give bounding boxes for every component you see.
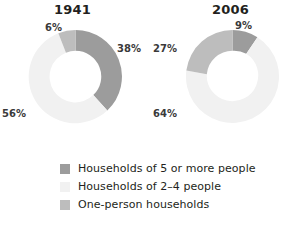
legend-label-one-person: One-person households: [78, 199, 209, 210]
donut-wrap-2006: 9% 27% 64%: [151, 27, 302, 150]
slice-label-2006-large: 9%: [235, 20, 252, 31]
legend-label-medium: Households of 2–4 people: [78, 181, 221, 192]
slice-label-1941-one-person: 6%: [45, 22, 62, 33]
donut-chart-2006: [183, 27, 282, 126]
legend-item-one-person: One-person households: [60, 196, 290, 213]
chart-title-1941: 1941: [0, 2, 148, 17]
slice-label-2006-one-person: 27%: [153, 43, 177, 54]
slice-label-1941-medium: 56%: [2, 108, 26, 119]
slice-label-1941-large: 38%: [117, 43, 141, 54]
donut-slice-1941-large: [76, 30, 122, 110]
legend-swatch-large-icon: [60, 164, 70, 174]
slice-label-2006-medium: 64%: [153, 108, 177, 119]
chart-title-2006: 2006: [155, 2, 302, 17]
chart-2006: 2006 9% 27% 64%: [151, 0, 302, 150]
charts-row: 1941 6% 38% 56% 2006: [0, 0, 302, 150]
legend-item-medium: Households of 2–4 people: [60, 178, 290, 195]
chart-1941: 1941 6% 38% 56%: [0, 0, 151, 150]
household-size-donut-figure: 1941 6% 38% 56% 2006: [0, 0, 302, 229]
donut-slice-2006-one-person: [186, 30, 232, 74]
legend-swatch-medium-icon: [60, 182, 70, 192]
donut-wrap-1941: 6% 38% 56%: [0, 27, 151, 150]
legend-swatch-one-person-icon: [60, 200, 70, 210]
donut-chart-1941: [26, 27, 125, 126]
legend-item-large: Households of 5 or more people: [60, 160, 290, 177]
chart-legend: Households of 5 or more people Household…: [60, 160, 290, 214]
legend-label-large: Households of 5 or more people: [78, 163, 256, 174]
